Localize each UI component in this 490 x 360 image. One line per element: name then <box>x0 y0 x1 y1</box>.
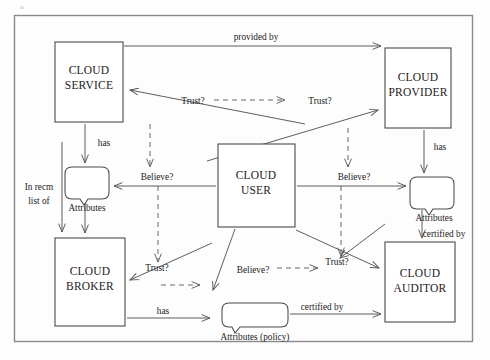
edge-label-certified-by-bottom: certified by <box>301 302 344 312</box>
node-cloud-user[interactable]: CLOUD USER <box>218 144 295 227</box>
edge-label-believe-bottom: Believe? <box>237 265 270 275</box>
node-cloud-service[interactable]: CLOUD SERVICE <box>55 42 123 122</box>
edge-label-trust-right-top: Trust? <box>308 96 331 106</box>
edge-provider-down-left <box>340 224 385 258</box>
node-cloud-broker[interactable]: CLOUD BROKER <box>55 238 125 326</box>
bubble-attributes-service <box>65 167 109 205</box>
bubble-attributes-policy <box>222 303 288 333</box>
node-cloud-user-line2: USER <box>241 184 271 196</box>
node-cloud-auditor-line1: CLOUD <box>400 267 441 279</box>
node-cloud-service-line2: SERVICE <box>65 79 113 91</box>
node-cloud-provider[interactable]: CLOUD PROVIDER <box>385 48 451 128</box>
node-cloud-broker-line2: BROKER <box>66 280 114 292</box>
node-cloud-auditor[interactable]: CLOUD AUDITOR <box>385 242 455 322</box>
edge-label-trust-bottom-left: Trust? <box>145 263 168 273</box>
corner-artifact-mark: o <box>20 3 24 11</box>
bubble-label-attributes-service: Attributes <box>68 203 106 213</box>
edge-label-has-provider: has <box>434 142 447 152</box>
edge-label-trust-left-top: Trust? <box>181 96 204 106</box>
edge-label-believe-right: Believe? <box>338 172 371 182</box>
diagram-page: CLOUD SERVICE CLOUD PROVIDER CLOUD USER … <box>0 0 490 360</box>
edge-label-certified-by-right: certified by <box>423 229 466 239</box>
node-cloud-user-line1: CLOUD <box>236 169 277 181</box>
edge-label-trust-bottom-right: Trust? <box>325 257 348 267</box>
node-cloud-auditor-line2: AUDITOR <box>394 282 447 294</box>
node-cloud-provider-line2: PROVIDER <box>388 86 447 98</box>
bubble-label-attributes-policy: Attributes (policy) <box>221 332 290 343</box>
edge-provider-to-service <box>130 90 305 124</box>
bubble-attributes-provider <box>410 177 454 215</box>
edge-label-believe-left: Believe? <box>141 172 174 182</box>
edge-label-in-recm-list-1: In recm <box>25 182 54 192</box>
edge-label-in-recm-list-2: list of <box>28 196 50 206</box>
edge-label-has-broker: has <box>157 306 170 316</box>
edge-user-to-broker <box>130 243 212 280</box>
edge-label-has-service: has <box>98 138 111 148</box>
bubble-label-attributes-provider: Attributes <box>415 213 453 223</box>
node-cloud-provider-line1: CLOUD <box>398 71 439 83</box>
node-cloud-broker-line1: CLOUD <box>70 265 111 277</box>
node-cloud-service-line1: CLOUD <box>69 64 110 76</box>
cloud-trust-diagram: CLOUD SERVICE CLOUD PROVIDER CLOUD USER … <box>0 0 490 360</box>
edge-label-provided-by: provided by <box>234 32 279 42</box>
edge-user-to-policy <box>213 229 235 290</box>
